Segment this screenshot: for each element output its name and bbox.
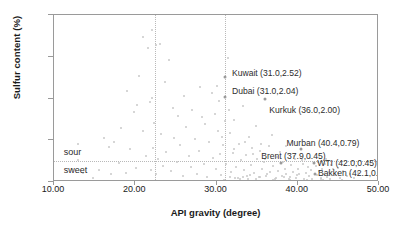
data-point — [172, 107, 174, 109]
x-tick-label: 50.00 — [348, 184, 405, 194]
data-point — [173, 137, 175, 139]
data-point — [218, 100, 220, 102]
data-point — [239, 178, 241, 180]
data-point — [275, 177, 277, 179]
data-point — [136, 104, 138, 106]
data-point — [170, 170, 172, 172]
data-point — [118, 162, 120, 164]
data-point — [220, 174, 222, 176]
x-tick-label: 40.00 — [267, 184, 327, 194]
vertical-divider — [155, 15, 156, 180]
annotation-dubai: Dubai (31.0,2.04) — [232, 86, 298, 96]
data-point — [322, 179, 324, 181]
data-point — [125, 172, 127, 174]
data-point — [190, 166, 192, 168]
data-point — [201, 116, 203, 118]
named-point-wti — [313, 162, 316, 165]
data-point — [229, 176, 231, 178]
data-point — [242, 176, 244, 178]
data-point — [185, 126, 187, 128]
data-point — [263, 161, 265, 163]
data-point — [341, 179, 343, 181]
annotation-murban: Murban (40.4,0.79) — [286, 138, 359, 148]
data-point — [295, 177, 297, 179]
data-point — [188, 155, 190, 157]
quality-label-sour: sour — [64, 147, 82, 157]
data-point — [182, 175, 184, 177]
data-point — [133, 111, 135, 113]
annotation-kurkuk: Kurkuk (36.0,2.00) — [269, 105, 340, 115]
x-tick-label: 10.00 — [23, 184, 83, 194]
data-point — [206, 176, 208, 178]
data-point — [243, 169, 245, 171]
data-point — [320, 178, 322, 180]
plot-area: soursweet Kuwait (31.0,2.52)Dubai (31.0,… — [53, 14, 378, 181]
x-tick-mark — [297, 181, 298, 185]
sulfur-vs-api-scatter-chart: Sulfur content (%) API gravity (degree) … — [0, 0, 405, 229]
data-point — [223, 179, 225, 181]
data-point — [253, 172, 255, 174]
data-point — [307, 166, 309, 168]
x-tick-mark — [378, 181, 379, 185]
data-point — [179, 144, 181, 146]
data-point — [203, 163, 205, 165]
data-point — [285, 173, 287, 175]
data-point — [183, 95, 185, 97]
data-point — [147, 47, 149, 49]
data-point — [103, 137, 105, 139]
data-point — [155, 173, 157, 175]
y-axis-title: Sulfur content (%) — [11, 0, 22, 118]
data-point — [155, 44, 157, 46]
data-point — [269, 171, 271, 173]
data-point — [77, 159, 79, 161]
data-point — [165, 151, 167, 153]
data-point — [296, 174, 298, 176]
data-point — [244, 141, 246, 143]
data-point — [162, 165, 164, 167]
data-point — [198, 150, 200, 152]
data-point — [247, 178, 249, 180]
data-point — [240, 159, 242, 161]
data-point — [211, 92, 213, 94]
data-point — [233, 119, 235, 121]
data-point — [271, 134, 273, 136]
data-point — [208, 141, 210, 143]
data-point — [298, 173, 300, 175]
data-point — [168, 59, 170, 61]
data-point — [235, 166, 237, 168]
data-point — [248, 136, 250, 138]
data-point — [176, 161, 178, 163]
data-point — [305, 172, 307, 174]
quality-label-sweet: sweet — [64, 165, 88, 175]
data-point — [135, 167, 137, 169]
data-point — [227, 57, 229, 59]
data-point — [304, 180, 306, 181]
data-point — [260, 143, 262, 145]
annotation-kuwait: Kuwait (31.0,2.52) — [232, 68, 302, 78]
data-point — [150, 169, 152, 171]
data-point — [282, 161, 284, 163]
data-point — [272, 165, 274, 167]
data-point — [277, 170, 279, 172]
data-point — [151, 97, 153, 99]
data-point — [290, 164, 292, 166]
data-point — [311, 178, 313, 180]
data-point — [216, 85, 218, 87]
x-axis-title: API gravity (degree) — [53, 207, 378, 218]
annotation-bakken: Bakken (42.1,0.18) — [318, 168, 378, 178]
data-point — [149, 101, 151, 103]
data-point — [92, 177, 94, 179]
data-point — [126, 90, 128, 92]
data-point — [153, 122, 155, 124]
data-point — [221, 136, 223, 138]
data-point — [204, 123, 206, 125]
data-point — [138, 75, 140, 77]
annotation-wti: WTI (42.0,0.45) — [317, 158, 377, 168]
named-point-kuwait — [223, 75, 226, 78]
data-point — [238, 143, 240, 145]
x-tick-label: 20.00 — [104, 184, 164, 194]
data-point — [164, 81, 166, 83]
data-point — [224, 120, 226, 122]
data-point — [129, 148, 131, 150]
data-point — [259, 176, 261, 178]
